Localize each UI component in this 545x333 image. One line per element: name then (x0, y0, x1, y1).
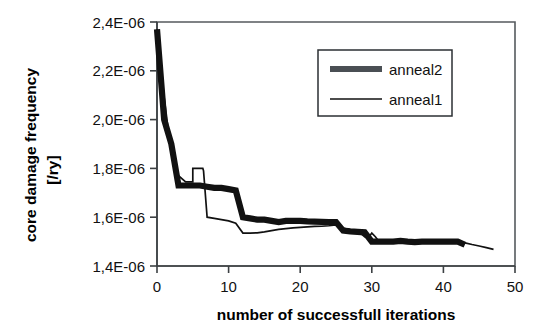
x-tick-label: 0 (153, 278, 161, 295)
y-axis-title-line2: [/ry] (44, 155, 61, 184)
y-tick-label: 2,0E-06 (92, 111, 145, 128)
x-tick-label: 30 (363, 278, 380, 295)
chart-figure: 1,4E-061,6E-061,8E-062,0E-062,2E-062,4E-… (0, 0, 545, 333)
legend-label-anneal2: anneal2 (389, 61, 442, 78)
y-axis-title-line1: core damage frequency (22, 68, 39, 242)
chart-legend: anneal2 anneal1 (318, 50, 452, 116)
y-tick-label: 1,6E-06 (92, 209, 145, 226)
y-tick-label: 2,2E-06 (92, 62, 145, 79)
y-tick-label: 1,8E-06 (92, 160, 145, 177)
y-tick-label: 1,4E-06 (92, 258, 145, 275)
x-tick-label: 20 (292, 278, 309, 295)
legend-label-anneal1: anneal1 (389, 91, 442, 108)
chart-background (0, 0, 545, 333)
x-tick-label: 10 (220, 278, 237, 295)
x-tick-label: 40 (435, 278, 452, 295)
y-tick-label: 2,4E-06 (92, 14, 145, 31)
x-tick-label: 50 (507, 278, 524, 295)
x-axis-title: number of successfull iterations (217, 306, 456, 323)
